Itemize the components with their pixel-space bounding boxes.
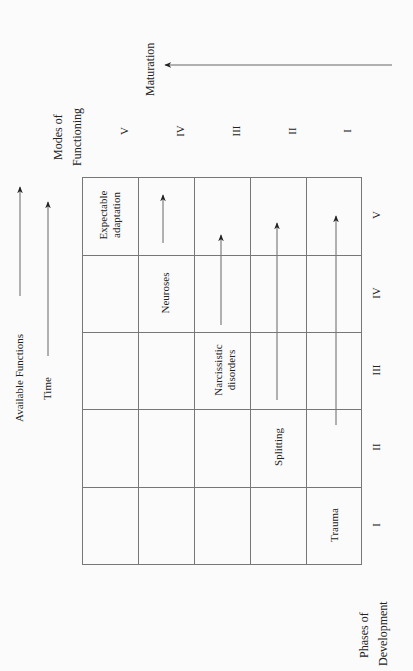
- cell-expectable-adaptation: Expectable adaptation: [97, 191, 123, 240]
- mode-label-ii: II: [286, 127, 299, 134]
- mode-label-v: V: [118, 127, 131, 135]
- available-functions-label: Available Functions: [13, 334, 26, 422]
- mode-label-iii: III: [230, 126, 243, 137]
- cell-narcissistic-disorders: Narcissistic disorders: [212, 344, 238, 395]
- mode-label-i: I: [341, 129, 354, 133]
- phase-label-v: V: [370, 211, 383, 219]
- phase-label-iii: III: [370, 365, 383, 376]
- mode-label-iv: IV: [174, 125, 187, 137]
- maturation-label: Maturation: [144, 43, 157, 96]
- time-label: Time: [41, 377, 54, 400]
- phases-title-line2: Development: [377, 601, 390, 666]
- phases-title-line1: Phases of: [358, 612, 371, 658]
- modes-title-line1: Modes of: [52, 114, 65, 160]
- cell-trauma: Trauma: [328, 508, 341, 542]
- phase-label-i: I: [370, 523, 383, 527]
- phase-label-iv: IV: [370, 287, 383, 299]
- cell-neuroses: Neuroses: [159, 273, 172, 314]
- cell-splitting: Splitting: [272, 428, 285, 466]
- phase-label-ii: II: [370, 443, 383, 450]
- modes-title-line2: Functioning: [71, 108, 84, 166]
